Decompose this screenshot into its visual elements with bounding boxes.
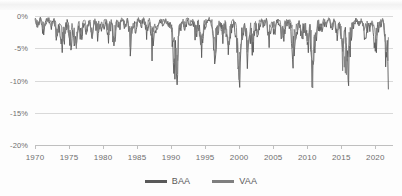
x-axis-tick-mark [69, 145, 70, 149]
drawdown-chart: 0%-5%-10%-15%-20% 1970197519801985199019… [0, 0, 402, 196]
x-axis-tick-mark [341, 145, 342, 149]
x-axis-tick-label: 1975 [60, 153, 79, 162]
x-axis-tick-label: 2005 [264, 153, 283, 162]
x-axis-tick-label: 1970 [26, 153, 45, 162]
series-line-baa [35, 17, 388, 89]
legend-swatch-vaa [212, 180, 234, 183]
legend-item-vaa[interactable]: VAA [212, 176, 257, 186]
x-axis-tick-mark [171, 145, 172, 149]
x-axis-tick-mark [273, 145, 274, 149]
chart-legend: BAAVAA [0, 176, 402, 186]
x-axis-tick-mark [137, 145, 138, 149]
y-axis-tick-label: -5% [14, 44, 28, 53]
legend-label-vaa: VAA [239, 176, 257, 186]
x-axis-tick-mark [103, 145, 104, 149]
x-axis-tick-mark [35, 145, 36, 149]
legend-item-baa[interactable]: BAA [145, 176, 191, 186]
x-axis-tick-label: 2020 [366, 153, 385, 162]
x-axis-tick-label: 1995 [196, 153, 215, 162]
y-axis-tick-label: -10% [10, 76, 28, 85]
y-axis-tick-label: -20% [10, 141, 28, 150]
x-axis-tick-label: 2015 [332, 153, 351, 162]
x-axis-tick-mark [307, 145, 308, 149]
legend-label-baa: BAA [172, 176, 191, 186]
x-axis-tick-label: 2000 [230, 153, 249, 162]
gridline [35, 145, 393, 146]
y-axis-tick-label: 0% [17, 12, 28, 21]
x-axis-tick-label: 1980 [94, 153, 113, 162]
x-axis-tick-mark [205, 145, 206, 149]
x-axis-tick-mark [239, 145, 240, 149]
y-axis-tick-label: -15% [10, 108, 28, 117]
x-axis-tick-label: 2010 [298, 153, 317, 162]
x-axis-tick-label: 1990 [162, 153, 181, 162]
legend-swatch-baa [145, 180, 167, 183]
plot-area [35, 16, 393, 145]
series-container [35, 16, 393, 145]
top-background-band [0, 0, 402, 10]
x-axis-tick-label: 1985 [128, 153, 147, 162]
x-axis-tick-mark [375, 145, 376, 149]
